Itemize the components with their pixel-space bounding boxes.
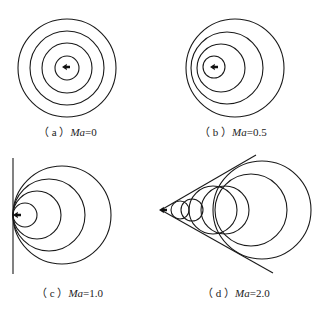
wavefront-circle-2 [197,44,245,92]
caption-a-value: =0 [85,126,97,138]
caption-a-var: Ma [70,126,85,138]
wavefront-circle-1 [171,201,189,219]
caption-d-var: Ma [235,287,250,299]
caption-d: （ d ）Ma=2.0 [202,284,270,300]
wavefront-circle-5 [215,174,287,246]
mach-cone-upper-line [161,155,256,210]
panel-d-supersonic [159,155,311,273]
caption-b-prefix: （ b ） [199,126,232,138]
caption-b: （ b ）Ma=0.5 [199,123,267,139]
panel-a-subsonic-stationary [18,19,116,117]
sound-source-arrow-icon [210,64,218,70]
sound-source-arrow-icon [13,212,21,218]
mach-wave-figure [0,0,316,309]
wavefront-circle-4 [186,19,284,117]
caption-c-prefix: （ c ） [36,287,68,299]
caption-b-var: Ma [232,126,247,138]
wavefront-circle-3 [13,179,85,251]
caption-c-value: =1.0 [83,287,103,299]
caption-a: （ a ）Ma=0 [38,123,97,139]
wavefront-circle-2 [181,199,203,221]
mach-cone-lower-line [161,210,273,273]
sound-source-arrow-icon [62,64,70,70]
wavefront-circle-3 [191,32,263,104]
caption-c-var: Ma [68,287,83,299]
caption-a-prefix: （ a ） [38,126,70,138]
caption-b-value: =0.5 [247,126,267,138]
wavefront-circle-4 [13,166,111,264]
caption-d-value: =2.0 [250,287,270,299]
panel-b-subsonic-moving [186,19,284,117]
caption-c: （ c ）Ma=1.0 [36,284,103,300]
wavefront-circle-4 [201,186,249,234]
panel-c-sonic [13,158,111,274]
caption-d-prefix: （ d ） [202,287,235,299]
